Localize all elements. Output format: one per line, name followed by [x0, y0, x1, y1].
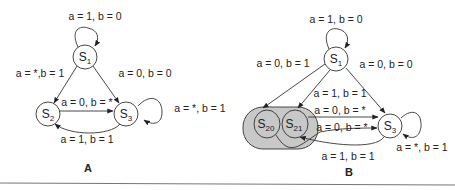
label-b-s3-s21: a = 1, b = 1 — [321, 150, 374, 162]
label-a-s3-s2: a = 1, b = 1 — [60, 133, 113, 145]
label-a-s2-s3: a = 0, b = * — [61, 96, 112, 108]
edge-a-s3-s2 — [55, 124, 120, 133]
panel-label-b: B — [345, 166, 353, 178]
edge-b-s1-s20 — [263, 64, 325, 108]
label-a-s1-s2: a = *,b = 1 — [16, 67, 65, 79]
diagram-a: a = 1, b = 0 a = *,b = 1 a = 0, b = 0 a … — [16, 10, 226, 174]
node-b-s21: S21 — [282, 110, 308, 138]
label-b-s1-s20: a = 0, b = 1 — [256, 57, 309, 69]
label-b-s1-s21: a = 1, b = 1 — [313, 87, 366, 99]
label-b-s1-self: a = 1, b = 0 — [309, 13, 362, 25]
label-b-s21-s3: a = 0, b = * — [314, 104, 365, 116]
label-b-s1-s3: a = 0, b = 0 — [359, 58, 412, 70]
node-b-s1: S1 — [324, 47, 348, 71]
node-a-s1: S1 — [73, 45, 97, 69]
edge-a-s1-self — [75, 27, 98, 47]
edge-b-s1-self — [326, 29, 347, 49]
label-b-s20-s3: a = 0, b = * — [316, 121, 367, 133]
node-b-s3: S3 — [378, 114, 402, 138]
label-b-s3-self: a = *, b = 1 — [396, 141, 448, 153]
label-a-s1-s3: a = 0, b = 0 — [118, 67, 171, 79]
state-diagram-figure: a = 1, b = 0 a = *,b = 1 a = 0, b = 0 a … — [0, 0, 455, 190]
node-a-s3: S3 — [114, 102, 138, 126]
node-b-s20: S20 — [254, 110, 280, 138]
node-a-s2: S2 — [36, 102, 60, 126]
edge-b-s3-self — [401, 112, 421, 137]
label-a-s1-self: a = 1, b = 0 — [68, 10, 121, 22]
diagram-b: a = 1, b = 0 a = 0, b = 1 a = 1, b = 1 a… — [243, 13, 448, 178]
bottom-divider — [0, 183, 455, 185]
edge-a-s3-self — [138, 98, 162, 123]
panel-label-a: A — [84, 162, 92, 174]
label-a-s3-self: a = *, b = 1 — [174, 102, 226, 114]
